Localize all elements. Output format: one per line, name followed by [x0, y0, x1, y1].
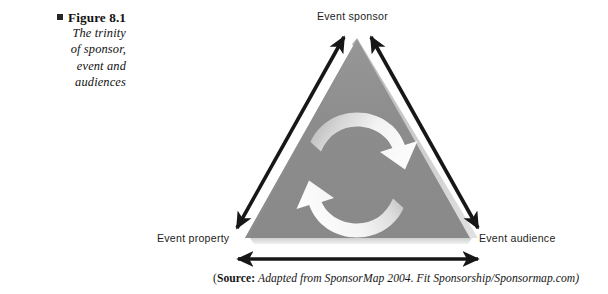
trinity-diagram — [0, 0, 608, 294]
triangle-body — [245, 39, 470, 238]
source-text: Adapted from SponsorMap 2004. Fit Sponso… — [258, 272, 579, 285]
triangle-base-shadow — [250, 238, 472, 244]
node-label-event-sponsor: Event sponsor — [317, 10, 388, 22]
figure-page: Figure 8.1 The trinity of sponsor, event… — [0, 0, 608, 294]
source-note: (Source: Adapted from SponsorMap 2004. F… — [213, 272, 579, 285]
node-label-event-property: Event property — [157, 232, 229, 244]
source-label: Source: — [217, 272, 255, 285]
node-label-event-audience: Event audience — [479, 232, 556, 244]
